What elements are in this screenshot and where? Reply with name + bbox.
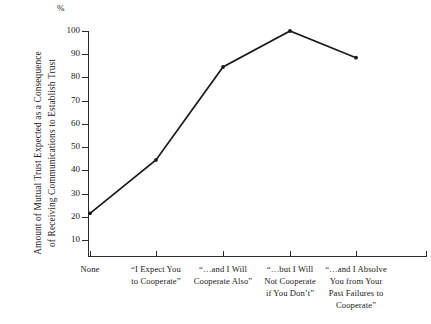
data-point-marker: [154, 158, 158, 162]
x-axis-category-label-line: Cooperate”: [310, 299, 402, 311]
data-series-line: [90, 31, 356, 213]
data-point-marker: [354, 56, 358, 60]
y-axis-tick-label-text: 100: [54, 26, 80, 35]
y-axis-tick-label: 10: [50, 235, 80, 244]
y-axis-tick: [82, 77, 88, 78]
x-axis-category-label-line: “…and I Absolve: [310, 263, 402, 275]
y-axis-line: [88, 31, 89, 256]
y-axis-tick: [82, 240, 88, 241]
y-axis-tick-label: 40: [50, 165, 80, 174]
y-axis-tick-label-text: 10: [54, 235, 80, 244]
y-axis-tick-label: 90: [50, 49, 80, 58]
chart-figure: Amount of Mutual Trust Expected as a Con…: [0, 0, 431, 324]
x-axis-tick: [356, 251, 357, 257]
y-axis-tick: [82, 124, 88, 125]
y-axis-title-line-1: Amount of Mutual Trust Expected as a Con…: [32, 10, 46, 296]
y-axis-tick-label-text: 70: [54, 96, 80, 105]
x-axis-category-label-line: Past Failures to: [310, 287, 402, 299]
y-axis-tick-label: 70: [50, 96, 80, 105]
y-axis-unit-label: %: [57, 3, 65, 13]
y-axis-tick-label: 80: [50, 72, 80, 81]
x-axis-tick: [90, 251, 91, 257]
y-axis-tick: [82, 194, 88, 195]
y-axis-title: Amount of Mutual Trust Expected as a Con…: [0, 0, 40, 300]
y-axis-tick-label-text: 90: [54, 49, 80, 58]
y-axis-tick-label-text: 40: [54, 165, 80, 174]
data-point-marker: [221, 65, 225, 69]
y-axis-tick: [82, 170, 88, 171]
y-axis-tick: [82, 147, 88, 148]
x-axis-tick: [156, 251, 157, 257]
y-axis-tick-label-text: 50: [54, 142, 80, 151]
y-axis-tick-label: 30: [50, 189, 80, 198]
x-axis-end-cap: [426, 251, 427, 257]
y-axis-tick-label-text: 60: [54, 119, 80, 128]
y-axis-tick: [82, 31, 88, 32]
y-axis-tick-label-text: 20: [54, 212, 80, 221]
y-axis-tick-label: 20: [50, 212, 80, 221]
data-point-markers: [88, 29, 358, 215]
y-axis-tick: [82, 217, 88, 218]
data-point-marker: [288, 29, 292, 33]
x-axis-tick: [290, 251, 291, 257]
y-axis-tick: [82, 101, 88, 102]
x-axis-category-label: “…and I AbsolveYou from YourPast Failure…: [310, 263, 402, 311]
y-axis-tick-label-text: 80: [54, 72, 80, 81]
y-axis-tick-label: 50: [50, 142, 80, 151]
x-axis-line: [88, 256, 426, 257]
y-axis-tick: [82, 54, 88, 55]
x-axis-category-label-line: You from Your: [310, 275, 402, 287]
y-axis-tick-label: 60: [50, 119, 80, 128]
x-axis-tick: [223, 251, 224, 257]
y-axis-tick-label-text: 30: [54, 189, 80, 198]
y-axis-tick-label: 100: [50, 26, 80, 35]
